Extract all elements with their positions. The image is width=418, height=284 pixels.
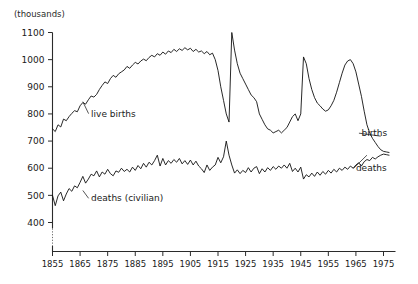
x-tick-label: 1875 [97, 259, 119, 269]
y-tick-label: 500 [27, 191, 44, 201]
x-tick-label: 1945 [290, 259, 312, 269]
y-tick-label: 800 [27, 109, 44, 119]
annotation-deaths-right: deaths [356, 163, 387, 173]
x-tick-label: 1925 [235, 259, 257, 269]
x-tick-label: 1975 [373, 259, 395, 269]
series-lines [53, 33, 390, 206]
x-tick-label: 1885 [124, 259, 146, 269]
annotation-deaths-civilian-left: deaths (civilian) [91, 193, 163, 203]
y-tick-label: 900 [27, 82, 44, 92]
series-line-live-births [53, 33, 390, 153]
x-tick-label: 1965 [345, 259, 367, 269]
y-axis-tick-labels: 11001000900800700600500400 [22, 28, 45, 228]
x-tick-label: 1955 [318, 259, 340, 269]
y-tick-label: 600 [27, 163, 44, 173]
x-axis-tick-labels: 1855186518751885189519051915192519351945… [42, 259, 395, 269]
x-tick-label: 1905 [180, 259, 202, 269]
y-tick-label: 1000 [22, 55, 45, 65]
population-statistics-chart: (thousands) 11001000900800700600500400 1… [0, 0, 418, 284]
annotation-leader-line [83, 190, 89, 198]
chart-canvas: (thousands) 11001000900800700600500400 1… [0, 0, 418, 284]
x-tick-label: 1865 [69, 259, 91, 269]
series-annotations: live birthsdeaths (civilian)birthsdeaths [83, 102, 388, 204]
x-axis-ticks [53, 252, 384, 257]
y-tick-label: 400 [27, 218, 44, 228]
x-tick-label: 1915 [207, 259, 229, 269]
y-tick-label: 1100 [22, 28, 45, 38]
y-axis-ticks [48, 33, 53, 223]
x-tick-label: 1895 [152, 259, 174, 269]
x-tick-label: 1935 [262, 259, 284, 269]
axes-group [48, 33, 396, 257]
axis-lines [53, 33, 396, 252]
annotation-live-births-left: live births [91, 109, 136, 119]
y-axis-unit-label: (thousands) [14, 9, 65, 19]
annotation-births-right: births [361, 128, 387, 138]
x-tick-label: 1855 [42, 259, 64, 269]
y-tick-label: 700 [27, 136, 44, 146]
